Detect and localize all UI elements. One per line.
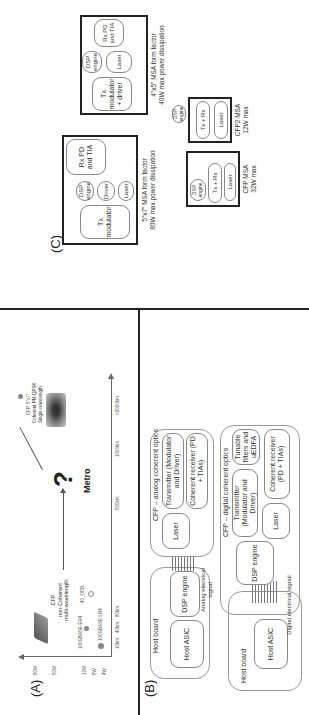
cfp-msa-caption-1: CFP MSA	[242, 151, 250, 207]
cfp-msa-dsp: DSP engine	[190, 179, 206, 201]
x-tick: 80km	[115, 606, 120, 617]
analog-dsp-label: DSP engine	[181, 575, 189, 612]
diagram-canvas: (A) 80W 50W 12W 8W 4W 10km 40km 80km 500…	[0, 0, 309, 715]
metro-label: Metro	[82, 469, 92, 494]
point-ocb-icon	[88, 591, 94, 597]
cfp2-msa-laser-label: Laser	[218, 113, 225, 128]
msa-5x7-dsp: DSP engine	[76, 181, 94, 201]
digital-host-asic-label: Host ASIC	[267, 628, 275, 660]
cfp-msa-txrx-label: Tx + Rx	[212, 173, 219, 194]
msa-4x5-rx-label: Rx PD and TIA	[102, 21, 116, 45]
msa-4x5-dsp-label: DSP engine	[85, 53, 99, 71]
digital-dsp-engine: DSP engine	[236, 541, 274, 585]
digital-host-asic: Host ASIC	[254, 619, 288, 669]
cfp-msa-laser: Laser	[224, 163, 236, 201]
msa-5x7-dsp-label: DSP engine	[78, 182, 92, 200]
msa-5x7-tx: Tx modulator	[80, 205, 130, 239]
msa-5x7-laser: Laser	[118, 181, 134, 201]
digital-laser-label: Laser	[272, 512, 280, 530]
analog-transmitter-label: Transmitter (Modulator and Driver)	[165, 435, 181, 507]
msa-5x7-caption-1: 5"x7" MSA form factor	[141, 135, 149, 245]
point-lr4-label: 100GBASE-LR4	[98, 608, 103, 641]
msa-5x7-laser-label: Laser	[123, 184, 130, 199]
cfp2-msa-caption-2: 12W max	[242, 97, 250, 143]
y-axis	[22, 656, 112, 657]
analog-transmitter: Transmitter (Modulator and Driver)	[162, 433, 184, 509]
x-tick: 10km	[115, 638, 120, 649]
msa-5x7-driver: Driver	[97, 181, 115, 201]
question-mark: ?	[48, 471, 79, 487]
msa-4x5-tx-label: Tx modulator + driver	[100, 78, 124, 109]
y-tick: 8W	[92, 668, 97, 675]
analog-wires	[172, 557, 194, 571]
point-er4-icon	[84, 626, 89, 631]
divider-vertical	[0, 308, 309, 310]
analog-host-asic: Host ASIC	[170, 620, 204, 668]
msa-4x5-laser-label: Laser	[116, 55, 123, 70]
digital-module-title: CFP – digital coherent optics	[222, 448, 229, 537]
y-axis-arrow-icon	[18, 654, 24, 660]
analog-receiver-label: Coherent receiver (PD + TIAs)	[189, 435, 205, 507]
analog-receiver: Coherent receiver (PD + TIAs)	[186, 433, 208, 509]
cfp2-msa-caption-1: CFP2 MSA	[234, 97, 242, 143]
analog-dsp-engine: DSP engine	[170, 571, 200, 617]
analog-laser-label: Laser	[172, 522, 180, 540]
analog-host-asic-label: Host ASIC	[183, 628, 191, 660]
point-coherent-label-b: Coherent PM-QPSK	[32, 382, 37, 423]
digital-host-board-label: Host board	[240, 649, 247, 683]
point-coherent-icon	[18, 394, 23, 399]
msa-4x5-tx: Tx modulator + driver	[92, 77, 132, 111]
digital-transmitter-label: Transmitter (Modulator and Driver)	[233, 471, 257, 535]
x-axis-arrow-icon	[108, 373, 114, 379]
point-lr4-icon	[98, 643, 104, 649]
cfp2-msa-laser: Laser	[214, 101, 228, 139]
point-er4-label: 100GBASE-ER4	[78, 616, 83, 649]
point-coherent-label-a: CFP, 5"x7"	[26, 394, 31, 415]
cfp-module-image	[34, 612, 48, 645]
msa-4x5-dsp: DSP engine	[82, 51, 102, 73]
analog-host-board-label: Host board	[152, 619, 159, 653]
x-tick: >2000km	[115, 396, 120, 415]
cfp-msa-dsp-label: DSP engine	[192, 181, 204, 199]
digital-transmitter: Transmitter (Modulator and Driver)	[232, 469, 258, 537]
x-tick: 40km	[115, 622, 120, 633]
cfp-noncoherent-label: CFP non-Coherent multi-wavelength	[50, 565, 70, 635]
cfp-msa-caption-2: 32W max	[250, 151, 258, 207]
analog-signal-label: Analog electrical signal	[200, 565, 214, 615]
msa-4x5-laser: Laser	[106, 51, 132, 73]
divider-horizontal	[138, 309, 140, 715]
msa-4x5-rx: Rx PD and TIA	[94, 19, 124, 47]
y-tick: 4W	[102, 668, 107, 675]
x-tick: 500km	[115, 496, 120, 510]
x-tick: 1000km	[115, 441, 120, 457]
msa-5x7-caption-2: 80W max power dissipation	[149, 135, 157, 245]
analog-module-title: CFP – analog coherent optics	[152, 429, 159, 521]
digital-dsp-label: DSP engine	[251, 544, 259, 581]
msa-5x7-driver-label: Driver	[103, 183, 110, 199]
y-tick: 80W	[33, 666, 38, 675]
cfp-msa-txrx: Tx + Rx	[208, 163, 222, 203]
msa-4x5-caption-1: 4"x5" MSA form factor	[150, 15, 158, 115]
digital-receiver: Coherent receiver (PD + TIAs)	[264, 429, 290, 499]
msa-4x5-caption-2: 40W max power dissipation	[158, 15, 166, 115]
arrow-head-icon	[60, 488, 66, 493]
digital-tunable: Tunable filters and uEDFA	[232, 429, 260, 465]
point-coherent-label-c: Single-wavelength	[38, 386, 43, 423]
digital-laser: Laser	[262, 503, 290, 539]
y-tick: 12W	[82, 666, 87, 675]
cfp-msa-laser-label: Laser	[227, 175, 234, 190]
panel-a-label: (A)	[28, 680, 43, 697]
point-ocb-label: 40_OCB	[80, 586, 85, 603]
cfp2-msa-txrx-label: Tx + Rx	[200, 110, 207, 131]
x-axis	[111, 377, 112, 657]
y-tick: 50W	[52, 666, 57, 675]
coherent-module-image	[46, 393, 66, 427]
panel-b-label: (B)	[142, 680, 157, 697]
msa-5x7-rx: Rx PD and TIA	[66, 139, 106, 175]
cfp2-msa-dsp: DSP engine	[172, 105, 186, 123]
cfp2-msa-dsp-label: DSP engine	[173, 106, 185, 121]
panel-c-label: (C)	[48, 235, 63, 253]
analog-laser: Laser	[162, 513, 190, 549]
arrow-coherent-line	[19, 427, 42, 470]
msa-5x7-tx-label: Tx modulator	[97, 206, 113, 237]
